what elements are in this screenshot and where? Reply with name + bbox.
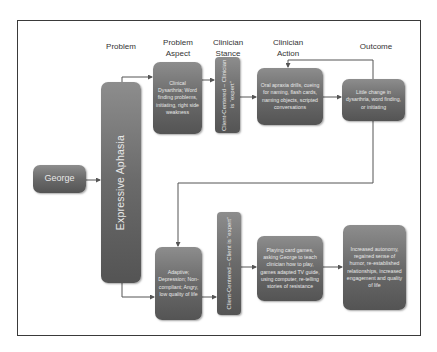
top-clinician-stance-text: Client-Centered – Clinician is “expert” xyxy=(220,57,236,133)
top-problem-aspect-text: Clinical Dysarthria; Word finding proble… xyxy=(153,78,202,118)
top-clinician-action-node: Oral apraxia drills, cueing for naming, … xyxy=(257,68,323,125)
bottom-clinician-action-text: Playing card games, asking George to tea… xyxy=(257,245,323,292)
bottom-clinician-stance-node: Client-Centered – Client is “expert” xyxy=(217,212,241,315)
bottom-problem-aspect-node: Adaptive; Depression; Non-compliant; Ang… xyxy=(155,247,202,320)
client-label: George xyxy=(41,173,77,184)
client-node-george: George xyxy=(33,165,86,193)
top-problem-aspect-node: Clinical Dysarthria; Word finding proble… xyxy=(153,62,202,134)
problem-label: Expressive Aphasia xyxy=(114,133,127,232)
top-clinician-action-text: Oral apraxia drills, cueing for naming, … xyxy=(257,80,323,113)
top-outcome-text: Little change in dysarthria, word findin… xyxy=(342,87,405,113)
top-outcome-node: Little change in dysarthria, word findin… xyxy=(342,79,405,121)
problem-node-expressive-aphasia: Expressive Aphasia xyxy=(101,82,141,283)
bottom-outcome-node: Increased autonomy, regained sense of hu… xyxy=(343,225,406,310)
top-clinician-stance-node: Client-Centered – Clinician is “expert” xyxy=(215,57,240,133)
bottom-outcome-text: Increased autonomy, regained sense of hu… xyxy=(343,244,406,291)
bottom-clinician-action-node: Playing card games, asking George to tea… xyxy=(257,236,323,301)
bottom-clinician-stance-text: Client-Centered – Client is “expert” xyxy=(225,217,233,309)
bottom-problem-aspect-text: Adaptive; Depression; Non-compliant; Ang… xyxy=(155,267,202,300)
